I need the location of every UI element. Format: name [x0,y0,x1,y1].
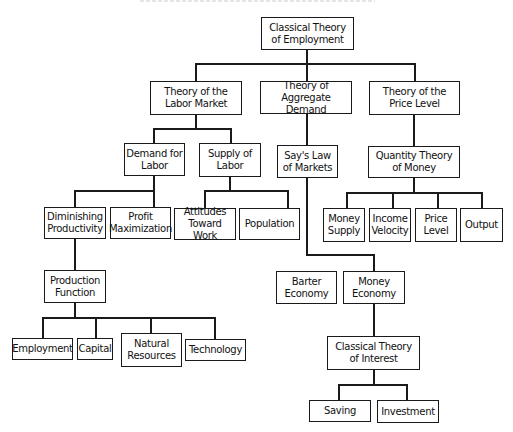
node-says-law-of-markets: Say's Law of Markets [277,145,338,178]
connector [229,176,231,191]
connector [153,128,155,143]
connector [153,128,232,130]
node-theory-of-labor-market: Theory of the Labor Market [150,81,242,115]
node-quantity-theory-of-money: Quantity Theory of Money [368,146,460,178]
node-profit-maximization: Profit Maximization [110,207,171,239]
connector [406,384,408,400]
node-money-economy: Money Economy [343,271,405,304]
node-population: Population [239,208,300,240]
node-output: Output [460,208,503,242]
connector [481,192,483,208]
connector [306,113,308,145]
connector [373,303,375,336]
node-theory-of-aggregate-demand: Theory of Aggregate Demand [260,81,352,114]
connector [42,317,216,319]
connector [373,254,375,271]
connector [214,317,216,339]
node-capital: Capital [77,338,113,360]
cropped-header-text [140,0,375,2]
node-money-supply: Money Supply [323,208,365,242]
node-classical-theory-of-employment: Classical Theory of Employment [261,17,354,50]
connector [437,192,439,208]
connector [306,254,375,256]
node-investment: Investment [377,400,439,423]
node-production-function: Production Function [44,270,106,303]
connector [230,128,232,143]
node-price-level: Price Level [415,208,457,242]
connector [150,317,152,333]
connector [414,63,416,81]
node-income-velocity: Income Velocity [369,208,411,242]
connector [306,177,308,256]
connector [287,190,289,208]
connector [195,63,197,81]
node-demand-for-labor: Demand for Labor [124,143,185,176]
connector [338,384,340,400]
connector [74,190,155,192]
node-attitudes-toward-work: Attitudes Toward Work [174,208,236,240]
node-diminishing-productivity: Diminishing Productivity [44,207,106,239]
connector [204,190,289,192]
node-saving: Saving [309,400,371,422]
connector [74,238,76,270]
connector [42,317,44,338]
connector [373,369,375,385]
connector [392,192,394,208]
node-theory-of-price-level: Theory of the Price Level [369,81,460,115]
node-barter-economy: Barter Economy [276,271,337,304]
node-natural-resources: Natural Resources [121,333,182,367]
node-technology: Technology [185,339,246,361]
connector [338,384,408,386]
connector [413,114,415,146]
connector [346,192,483,194]
connector [74,190,76,207]
connector [346,192,348,208]
connector [195,63,416,65]
node-classical-theory-of-interest: Classical Theory of Interest [327,336,420,370]
node-supply-of-labor: Supply of Labor [199,143,261,177]
node-employment: Employment [12,338,73,360]
connector [95,317,97,338]
connector [306,49,308,81]
